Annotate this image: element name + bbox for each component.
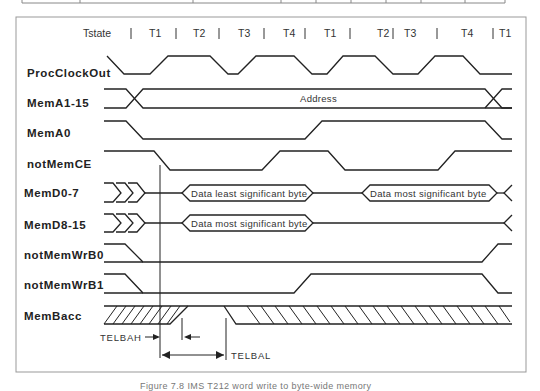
tstate-label: Tstate	[83, 27, 111, 39]
waveform-memd8-15: Data most significant byte	[104, 214, 512, 232]
tstate-t1: T1	[149, 27, 161, 39]
tstate-t3: T3	[238, 27, 250, 39]
label-membacc: MemBacc	[24, 310, 82, 322]
telbah-label: TELBAH	[100, 332, 142, 343]
telbal-label: TELBAL	[231, 350, 271, 361]
tstate-t4b: T4	[461, 27, 473, 39]
tstate-t3b: T3	[404, 27, 416, 39]
label-notmemce: notMemCE	[27, 158, 92, 170]
waveform-membacc	[104, 306, 512, 324]
waveform-notmemce	[104, 151, 512, 170]
waveform-notmemwrb1	[104, 274, 512, 293]
label-memd8-15: MemD8-15	[24, 219, 86, 231]
tstate-t2b: T2	[377, 27, 389, 39]
label-memd0-7: MemD0-7	[24, 187, 79, 199]
label-notmemwrb1: notMemWrB1	[24, 279, 104, 291]
label-mema1-15: MemA1-15	[27, 97, 89, 109]
label-notmemwrb0: notMemWrB0	[24, 249, 104, 261]
waveform-mema0	[104, 121, 512, 139]
label-procclockout: ProcClockOut	[27, 67, 111, 79]
tstate-header: Tstate T1 T2 T3 T4 T1 T2 T3 T4 T1	[83, 27, 511, 39]
tstate-t1b: T1	[324, 27, 336, 39]
tstate-t4: T4	[283, 27, 295, 39]
memd8-15-msb-label: Data most significant byte	[191, 218, 308, 229]
figure-caption: Figure 7.8 IMS T212 word write to byte-w…	[140, 381, 372, 391]
waveform-memd0-7: Data least significant byte Data most si…	[104, 183, 512, 202]
label-mema0: MemA0	[27, 127, 71, 139]
tstate-t1c: T1	[499, 27, 511, 39]
waveform-procclockout	[107, 56, 512, 74]
waveform-notmemwrb0	[104, 244, 512, 262]
memd0-7-msb-label: Data most significant byte	[370, 188, 487, 199]
table-remnant	[22, 0, 505, 3]
signal-labels: ProcClockOut MemA1-15 MemA0 notMemCE Mem…	[24, 67, 111, 322]
waveform-mema1-15: Address	[104, 89, 512, 108]
tstate-t2: T2	[193, 27, 205, 39]
address-label: Address	[300, 93, 337, 104]
timing-diagram: Tstate T1 T2 T3 T4 T1 T2 T3 T4 T1 ProcCl…	[0, 0, 540, 391]
memd0-7-lsb-label: Data least significant byte	[191, 188, 307, 199]
